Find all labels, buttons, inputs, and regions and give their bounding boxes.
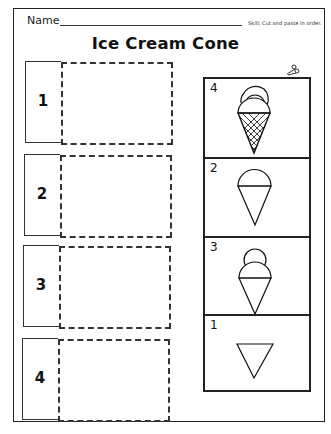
empty-cone-icon xyxy=(205,316,309,390)
cut-out-card[interactable]: 3 xyxy=(205,238,309,316)
slot-number: 4 xyxy=(22,369,58,387)
paste-area[interactable] xyxy=(58,339,170,422)
slot-number: 1 xyxy=(25,92,61,110)
scissors-icon xyxy=(286,64,302,76)
ice-cream-two-scoops-icon xyxy=(205,238,309,316)
paste-area[interactable] xyxy=(60,155,172,238)
cut-out-strip: 4 2 3 xyxy=(203,77,311,392)
ice-cream-waffle-two-scoops-icon xyxy=(205,79,309,159)
skill-instruction: Skill: Cut and paste in order. xyxy=(248,20,321,26)
cut-out-card[interactable]: 1 xyxy=(205,316,309,390)
slot-number: 3 xyxy=(23,276,59,294)
ice-cream-one-scoop-icon xyxy=(205,159,309,238)
slot-number: 2 xyxy=(24,185,60,203)
cut-out-card[interactable]: 4 xyxy=(205,79,309,159)
name-label: Name xyxy=(27,14,59,27)
paste-area[interactable] xyxy=(61,62,173,145)
paste-area[interactable] xyxy=(59,246,171,329)
worksheet-title: Ice Cream Cone xyxy=(0,34,331,53)
name-field-line[interactable] xyxy=(60,25,242,26)
cut-out-card[interactable]: 2 xyxy=(205,159,309,238)
